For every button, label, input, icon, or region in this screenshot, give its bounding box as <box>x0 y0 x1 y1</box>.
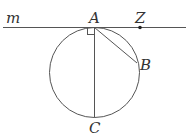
label-C: C <box>89 121 100 136</box>
label-m: m <box>6 11 20 26</box>
right-angle-marker <box>88 28 95 35</box>
label-Z: Z <box>135 11 145 26</box>
label-B: B <box>140 58 151 73</box>
label-A: A <box>89 11 100 26</box>
